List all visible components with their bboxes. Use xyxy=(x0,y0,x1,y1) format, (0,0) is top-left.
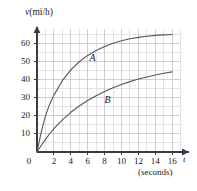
y-tick-label-40: 40 xyxy=(12,75,30,84)
x-tick-label-14: 14 xyxy=(148,157,162,166)
x-axis-units-label: (seconds) xyxy=(138,168,173,177)
y-tick-label-30: 30 xyxy=(12,93,30,102)
curve-label-a: A xyxy=(89,53,95,63)
x-tick-label-16: 16 xyxy=(165,157,179,166)
x-tick-label-6: 6 xyxy=(81,157,95,166)
velocity-time-chart: v(mi/h) t (seconds) 102030405060 0246810… xyxy=(0,0,197,191)
curve-label-b: B xyxy=(105,95,111,105)
grid-major-lines xyxy=(37,29,181,152)
y-tick-label-20: 20 xyxy=(12,111,30,120)
y-axis-label: v(mi/h) xyxy=(25,8,53,18)
x-tick-label-10: 10 xyxy=(115,157,129,166)
x-axis-label: t xyxy=(183,155,186,164)
x-tick-label-4: 4 xyxy=(64,157,78,166)
x-tick-label-8: 8 xyxy=(98,157,112,166)
y-tick-label-50: 50 xyxy=(12,57,30,66)
x-tick-label-12: 12 xyxy=(131,157,145,166)
x-tick-label-0: 0 xyxy=(22,157,36,166)
y-axis-units: (mi/h) xyxy=(29,7,53,17)
y-tick-label-60: 60 xyxy=(12,39,30,48)
y-tick-label-10: 10 xyxy=(12,129,30,138)
axis-tick-marks xyxy=(34,44,172,156)
x-tick-label-2: 2 xyxy=(47,157,61,166)
